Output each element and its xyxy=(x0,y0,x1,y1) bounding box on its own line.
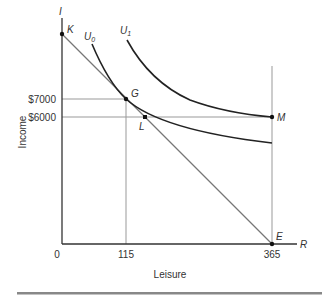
label-m: M xyxy=(277,112,286,123)
tick-7000: $7000 xyxy=(28,94,56,105)
y-axis-letter: I xyxy=(59,6,62,17)
point-k xyxy=(60,32,64,36)
label-g: G xyxy=(131,88,139,99)
income-leisure-diagram: I K U0 U1 G L M E R $7000 $6000 0 115 36… xyxy=(0,0,322,296)
label-u0: U0 xyxy=(84,31,95,43)
point-m xyxy=(270,115,274,119)
x-axis-letter: R xyxy=(300,239,307,250)
label-e: E xyxy=(276,231,283,242)
x-axis-title: Leisure xyxy=(154,269,187,280)
label-l: L xyxy=(139,121,145,132)
footer-rule xyxy=(17,292,322,295)
tick-115: 115 xyxy=(118,249,134,260)
indifference-curve-u1 xyxy=(127,40,272,117)
label-k: K xyxy=(67,24,75,35)
tick-6000: $6000 xyxy=(28,112,56,123)
point-g xyxy=(124,97,128,101)
origin-label: 0 xyxy=(54,249,60,260)
y-axis-title: Income xyxy=(17,115,28,148)
tick-365: 365 xyxy=(264,249,281,260)
label-u1: U1 xyxy=(120,25,131,37)
indifference-curve-u0 xyxy=(92,44,272,143)
point-e xyxy=(270,242,274,246)
point-l xyxy=(143,115,147,119)
